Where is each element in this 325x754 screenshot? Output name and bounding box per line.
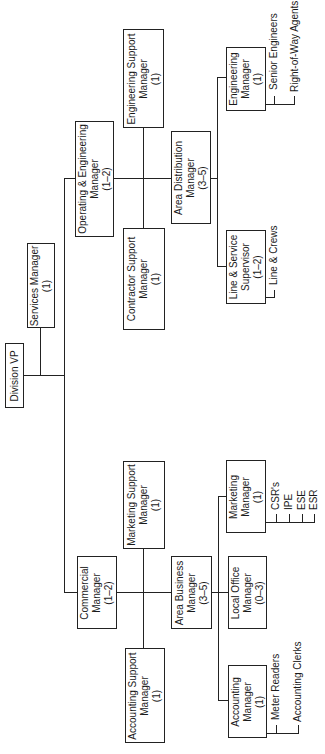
box-label: Accounting Support bbox=[127, 652, 139, 739]
org-chart: Division VP Services Manager (1) Operati… bbox=[0, 0, 325, 754]
box-label: Manager bbox=[139, 652, 151, 739]
box-label: Manager bbox=[242, 566, 254, 619]
box-label: Engineering Support bbox=[126, 33, 138, 124]
box-label: Services Manager bbox=[29, 245, 41, 326]
box-label: Manager bbox=[91, 566, 103, 619]
box-marketing-support-manager: Marketing Support Manager (1) bbox=[123, 461, 165, 549]
box-label: Supervisor bbox=[240, 235, 252, 299]
connector bbox=[218, 496, 219, 701]
connector bbox=[217, 77, 226, 78]
connector bbox=[218, 700, 228, 701]
connector bbox=[113, 178, 171, 179]
connector bbox=[265, 104, 295, 105]
connector bbox=[302, 514, 303, 522]
box-line-service-supervisor: Line & Service Supervisor (1–2) bbox=[226, 230, 266, 304]
box-count: (1) bbox=[150, 33, 162, 124]
box-label: Marketing bbox=[228, 475, 240, 519]
box-count: (1) bbox=[151, 652, 163, 739]
connector bbox=[64, 592, 77, 593]
box-label: Line & Service bbox=[228, 235, 240, 299]
box-label: Manager bbox=[185, 141, 197, 215]
connector bbox=[23, 375, 65, 376]
box-label: Local Office bbox=[230, 566, 242, 619]
box-label: Manager bbox=[138, 33, 150, 124]
box-contractor-support-manager: Contractor Support Manager (1) bbox=[123, 228, 165, 330]
connector bbox=[274, 96, 275, 104]
connector bbox=[64, 178, 75, 179]
connector bbox=[40, 327, 41, 375]
connector bbox=[143, 548, 144, 648]
box-accounting-manager: Accounting Manager (1) bbox=[228, 665, 267, 738]
box-engineering-support-manager: Engineering Support Manager (1) bbox=[123, 29, 164, 128]
box-label: Contractor Support bbox=[126, 237, 138, 322]
box-label: Commercial bbox=[79, 566, 91, 619]
box-count: (3–5) bbox=[198, 560, 210, 624]
connector bbox=[266, 733, 299, 734]
box-label: Manager bbox=[240, 475, 252, 519]
box-label: Division VP bbox=[9, 350, 21, 401]
leaf-csrs: CSR's bbox=[271, 482, 281, 510]
box-label: Manager bbox=[186, 560, 198, 624]
box-label: Manager bbox=[242, 677, 254, 726]
connector bbox=[289, 514, 290, 522]
box-count: (1) bbox=[254, 677, 266, 726]
box-label: Engineering bbox=[228, 52, 240, 105]
box-area-business-manager: Area Business Manager (3–5) bbox=[171, 556, 212, 629]
box-label: Operating & Engineering bbox=[77, 124, 89, 234]
box-services-manager: Services Manager (1) bbox=[27, 243, 55, 328]
box-division-vp: Division VP bbox=[5, 343, 24, 408]
box-engineering-manager: Engineering Manager (1) bbox=[226, 47, 266, 111]
connector bbox=[218, 496, 226, 497]
box-count: (1–2) bbox=[252, 235, 264, 299]
box-count: (1) bbox=[252, 475, 264, 519]
box-label: Area Business bbox=[174, 560, 186, 624]
box-area-distribution-manager: Area Distribution Manager (3–5) bbox=[171, 131, 211, 224]
box-commercial-manager: Commercial Manager (1–2) bbox=[77, 556, 117, 629]
connector bbox=[265, 522, 315, 523]
box-label: Manager bbox=[240, 52, 252, 105]
connector bbox=[217, 266, 226, 267]
leaf-ese: ESE bbox=[297, 490, 307, 510]
box-operating-engineering-manager: Operating & Engineering Manager (1–2) bbox=[75, 121, 114, 237]
connector bbox=[294, 96, 295, 104]
box-accounting-support-manager: Accounting Support Manager (1) bbox=[125, 648, 165, 743]
box-label: Manager bbox=[138, 237, 150, 322]
leaf-esr: ESR bbox=[309, 489, 319, 510]
box-count: (1) bbox=[41, 245, 53, 326]
box-local-office-manager: Local Office Manager (0–3) bbox=[228, 556, 267, 629]
leaf-right-of-way-agents: Right-of-Way Agents bbox=[290, 1, 300, 92]
connector bbox=[276, 514, 277, 522]
connector bbox=[217, 77, 218, 267]
connector bbox=[274, 290, 275, 298]
leaf-line-crews: Line & Crews bbox=[269, 226, 279, 285]
connector bbox=[314, 514, 315, 522]
leaf-senior-engineers: Senior Engineers bbox=[269, 13, 279, 90]
connector bbox=[276, 725, 277, 733]
leaf-meter-readers: Meter Readers bbox=[271, 654, 281, 720]
box-count: (1–2) bbox=[101, 124, 113, 234]
box-count: (1) bbox=[150, 464, 162, 546]
box-label: Area Distribution bbox=[173, 141, 185, 215]
box-count: (1) bbox=[150, 237, 162, 322]
box-label: Accounting bbox=[230, 677, 242, 726]
box-count: (1) bbox=[252, 52, 264, 105]
box-count: (0–3) bbox=[254, 566, 266, 619]
box-label: Manager bbox=[89, 124, 101, 234]
connector bbox=[143, 127, 144, 228]
box-label: Marketing Support bbox=[126, 464, 138, 546]
connector bbox=[211, 592, 228, 593]
leaf-ipe: IPE bbox=[284, 494, 294, 510]
connector bbox=[298, 725, 299, 733]
leaf-accounting-clerks: Accounting Clerks bbox=[293, 641, 303, 722]
box-count: (1–2) bbox=[103, 566, 115, 619]
box-label: Manager bbox=[138, 464, 150, 546]
box-marketing-manager: Marketing Manager (1) bbox=[226, 460, 266, 533]
connector bbox=[64, 178, 65, 592]
box-count: (3–5) bbox=[197, 141, 209, 215]
